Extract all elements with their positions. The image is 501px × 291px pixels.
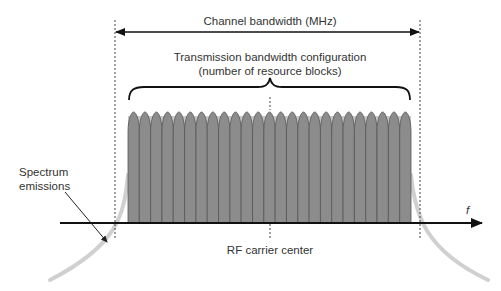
resource-block	[286, 112, 297, 223]
spectrum-emissions-label-line1: Spectrum	[19, 165, 68, 179]
spectrum-emissions-pointer	[65, 192, 107, 242]
resource-block	[388, 112, 399, 223]
resource-blocks	[128, 112, 411, 223]
transmission-config-label-line1: Transmission bandwidth configuration	[174, 50, 367, 64]
resource-block	[400, 112, 411, 223]
channel-bandwidth-label: Channel bandwidth (MHz)	[204, 14, 337, 28]
resource-block	[139, 112, 150, 223]
resource-block	[128, 112, 139, 223]
resource-block	[366, 112, 377, 223]
rf-carrier-center-label: RF carrier center	[227, 243, 313, 257]
resource-block	[264, 112, 275, 223]
resource-block	[207, 112, 218, 223]
resource-block	[162, 112, 173, 223]
resource-block	[320, 112, 331, 223]
resource-block	[173, 112, 184, 223]
resource-block	[241, 112, 252, 223]
resource-block	[309, 112, 320, 223]
resource-block	[219, 112, 230, 223]
resource-block	[253, 112, 264, 223]
resource-block	[332, 112, 343, 223]
resource-block	[275, 112, 286, 223]
spectrum-emissions-label-line2: emissions	[19, 179, 70, 193]
transmission-config-label-line2: (number of resource blocks)	[198, 64, 341, 78]
transmission-bandwidth-brace	[129, 78, 410, 100]
resource-block	[298, 112, 309, 223]
resource-block	[377, 112, 388, 223]
resource-block	[230, 112, 241, 223]
resource-block	[196, 112, 207, 223]
resource-block	[151, 112, 162, 223]
resource-block	[354, 112, 365, 223]
frequency-axis-label: f	[466, 203, 469, 217]
resource-block	[185, 112, 196, 223]
resource-block	[343, 112, 354, 223]
